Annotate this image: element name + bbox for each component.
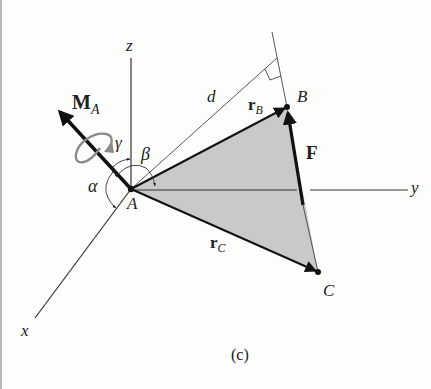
moment-label-main: M	[72, 91, 91, 113]
alpha-arc	[106, 173, 116, 208]
line-of-action	[272, 32, 287, 107]
x-axis	[35, 189, 131, 318]
rC-label-sub: C	[218, 241, 226, 255]
alpha-label: α	[88, 177, 97, 195]
y-axis-label: y	[411, 179, 419, 196]
gamma-arc	[114, 159, 130, 166]
x-axis-label: x	[21, 322, 29, 339]
moment-label-sub: A	[91, 102, 100, 117]
point-a-label: A	[127, 195, 137, 212]
point-c-dot	[315, 269, 321, 275]
rC-label: rC	[210, 234, 225, 255]
beta-label: β	[141, 145, 150, 163]
figure-canvas: z y x MA γ β α A B C d rB rC F (c)	[0, 0, 431, 389]
point-b-dot	[284, 104, 290, 110]
distance-d-label: d	[207, 88, 216, 105]
point-c-label: C	[323, 282, 334, 299]
rC-label-main: r	[210, 233, 218, 252]
point-b-label: B	[297, 88, 307, 105]
moment-label: MA	[72, 92, 99, 117]
rB-label-main: r	[248, 95, 256, 114]
diagram-svg	[0, 0, 431, 389]
rB-label: rB	[248, 96, 263, 117]
figure-caption: (c)	[231, 347, 249, 363]
z-axis-label: z	[126, 37, 133, 54]
gamma-label: γ	[115, 134, 122, 151]
force-label: F	[306, 143, 318, 162]
rB-label-sub: B	[256, 103, 263, 117]
right-angle-marker	[265, 69, 281, 80]
